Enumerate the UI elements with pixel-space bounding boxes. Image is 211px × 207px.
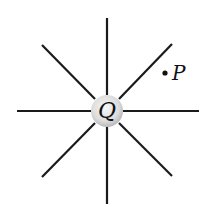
field-line-diagram: Q P [0, 0, 211, 207]
field-line-down-left [42, 123, 95, 177]
point-p-dot [162, 70, 167, 75]
field-line-down-right [119, 123, 172, 176]
point-p-label: P [171, 61, 186, 85]
charge-label: Q [98, 98, 116, 123]
field-line-up-left [42, 45, 95, 99]
